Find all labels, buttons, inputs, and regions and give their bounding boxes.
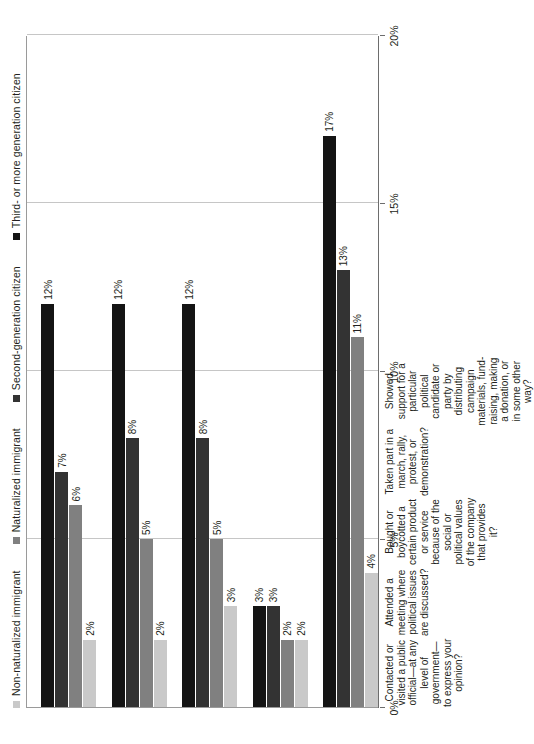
bar[interactable] xyxy=(83,640,96,707)
legend-swatch-icon xyxy=(13,701,20,708)
legend-swatch-icon xyxy=(13,233,20,240)
legend-item-1[interactable]: Naturalized immigrant xyxy=(10,428,22,544)
bar[interactable] xyxy=(253,606,266,707)
bar-value-label: 12% xyxy=(42,280,53,300)
bar-row: 3% xyxy=(224,36,237,707)
bar-value-label: 3% xyxy=(225,588,236,602)
legend-item-2[interactable]: Second-generation citizen xyxy=(10,266,22,402)
bar-value-label: 6% xyxy=(70,487,81,501)
bar-group: 17%13%11%4% xyxy=(309,36,387,707)
bar-row: 2% xyxy=(295,36,308,707)
bar-value-label: 8% xyxy=(127,420,138,434)
bar[interactable] xyxy=(126,438,139,707)
legend-item-3[interactable]: Third- or more generation citizen xyxy=(10,73,22,240)
bar-group: 3%3%2%2% xyxy=(238,36,316,707)
bar[interactable] xyxy=(267,606,280,707)
category-label: Attended a meeting where political issue… xyxy=(384,567,430,637)
bar-value-label: 8% xyxy=(197,420,208,434)
bar-row: 5% xyxy=(210,36,223,707)
chart-legend: Non-naturalized immigrantNaturalized imm… xyxy=(6,36,26,708)
legend-label: Third- or more generation citizen xyxy=(10,73,22,228)
bar-row: 2% xyxy=(83,36,96,707)
bar-row: 2% xyxy=(154,36,167,707)
bar-group: 12%8%5%3% xyxy=(168,36,246,707)
bar-row: 2% xyxy=(281,36,294,707)
legend-item-0[interactable]: Non-naturalized immigrant xyxy=(10,570,22,708)
bar-row: 3% xyxy=(253,36,266,707)
bar[interactable] xyxy=(55,472,68,707)
bar-value-label: 2% xyxy=(282,621,293,635)
bar-value-label: 13% xyxy=(338,246,349,266)
bar-row: 13% xyxy=(337,36,350,707)
bar-row: 7% xyxy=(55,36,68,707)
bar-value-label: 2% xyxy=(296,621,307,635)
category-labels: Contacted or visited a public official—a… xyxy=(384,36,440,708)
bar[interactable] xyxy=(196,438,209,707)
category-label: Contacted or visited a public official—a… xyxy=(384,638,465,708)
bar[interactable] xyxy=(295,640,308,707)
bar-row: 4% xyxy=(365,36,378,707)
bar[interactable] xyxy=(337,270,350,707)
bar-value-label: 12% xyxy=(113,280,124,300)
bar[interactable] xyxy=(281,640,294,707)
bar[interactable] xyxy=(140,539,153,707)
bar-row: 12% xyxy=(112,36,125,707)
legend-label: Non-naturalized immigrant xyxy=(10,570,22,696)
bar-group: 12%7%6%2% xyxy=(27,36,105,707)
bar-row: 17% xyxy=(323,36,336,707)
bar-value-label: 2% xyxy=(84,621,95,635)
legend-label: Naturalized immigrant xyxy=(10,428,22,532)
bar-row: 12% xyxy=(41,36,54,707)
bar[interactable] xyxy=(323,136,336,707)
bar-value-label: 17% xyxy=(324,112,335,132)
bar-value-label: 11% xyxy=(352,314,363,333)
bar[interactable] xyxy=(224,606,237,707)
bar[interactable] xyxy=(154,640,167,707)
bar-value-label: 3% xyxy=(268,588,279,602)
bar-value-label: 3% xyxy=(254,588,265,602)
bar[interactable] xyxy=(365,573,378,707)
plot-area: 12%7%6%2%12%8%5%2%12%8%5%3%3%3%2%2%17%13… xyxy=(26,36,378,708)
category-label: Showed support for a particular politica… xyxy=(384,356,534,426)
bar-row: 8% xyxy=(126,36,139,707)
bar-row: 8% xyxy=(196,36,209,707)
bar-row: 12% xyxy=(182,36,195,707)
bar-value-label: 4% xyxy=(366,554,377,568)
bar-row: 6% xyxy=(69,36,82,707)
bar[interactable] xyxy=(69,505,82,707)
bar-row: 5% xyxy=(140,36,153,707)
category-label: Taken part in a march, rally, protest, o… xyxy=(384,426,430,496)
bar[interactable] xyxy=(41,304,54,707)
legend-swatch-icon xyxy=(13,537,20,544)
bar-row: 3% xyxy=(267,36,280,707)
bar-value-label: 12% xyxy=(183,280,194,300)
category-label: Bought or boycotted a certain product or… xyxy=(384,497,499,567)
bar[interactable] xyxy=(182,304,195,707)
bar[interactable] xyxy=(210,539,223,707)
bar[interactable] xyxy=(112,304,125,707)
bar-value-label: 2% xyxy=(155,621,166,635)
legend-label: Second-generation citizen xyxy=(10,266,22,390)
gridline xyxy=(27,34,378,35)
bar-row: 11% xyxy=(351,36,364,707)
bar[interactable] xyxy=(351,337,364,707)
legend-swatch-icon xyxy=(13,395,20,402)
bar-group: 12%8%5%2% xyxy=(97,36,175,707)
category-axis-line xyxy=(378,36,379,708)
bar-value-label: 5% xyxy=(211,521,222,535)
bar-value-label: 7% xyxy=(56,453,67,467)
bar-value-label: 5% xyxy=(141,521,152,535)
